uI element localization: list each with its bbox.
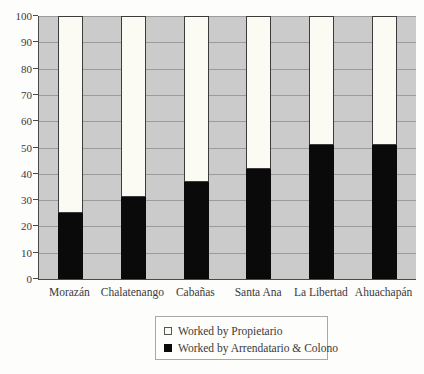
y-tick-label: 40 [4, 167, 32, 181]
y-tick-label: 70 [4, 88, 32, 102]
plot-area [38, 16, 416, 280]
y-tick-mark [33, 252, 38, 253]
y-tick-mark [33, 278, 38, 279]
x-axis-label: Morazán [38, 286, 101, 302]
bar-segment-propietario [309, 16, 334, 145]
gridline [39, 226, 416, 227]
legend: Worked by Propietario Worked by Arrendat… [155, 316, 328, 360]
bar-segment-arrendatario [121, 197, 146, 279]
y-tick-mark [33, 15, 38, 16]
bar-segment-arrendatario [372, 145, 397, 279]
legend-row-arrendatario: Worked by Arrendatario & Colono [164, 339, 327, 356]
x-axis-label: Cabañas [164, 286, 227, 302]
gridline [39, 16, 416, 17]
y-tick-mark [33, 225, 38, 226]
legend-label-arrendatario: Worked by Arrendatario & Colono [178, 342, 338, 354]
y-tick-mark [33, 68, 38, 69]
y-tick-label: 80 [4, 62, 32, 76]
y-tick-mark [33, 120, 38, 121]
y-tick-label: 50 [4, 141, 32, 155]
bar-segment-propietario [121, 16, 146, 197]
y-tick-label: 10 [4, 246, 32, 260]
bar-segment-propietario [184, 16, 209, 182]
gridline [39, 42, 416, 43]
y-tick-label: 30 [4, 193, 32, 207]
y-tick-mark [33, 199, 38, 200]
x-axis-label: Santa Ana [227, 286, 290, 302]
y-tick-label: 20 [4, 219, 32, 233]
gridline [39, 200, 416, 201]
bar-segment-arrendatario [246, 169, 271, 279]
chart: 0102030405060708090100 MorazánChalatenan… [0, 0, 424, 374]
gridline [39, 253, 416, 254]
y-tick-mark [33, 41, 38, 42]
gridline [39, 69, 416, 70]
gridline [39, 95, 416, 96]
y-tick-label: 100 [4, 9, 32, 23]
x-axis: MorazánChalatenangoCabañasSanta AnaLa Li… [38, 286, 415, 302]
y-tick-mark [33, 173, 38, 174]
y-tick-label: 0 [4, 272, 32, 286]
bar-segment-arrendatario [184, 182, 209, 279]
y-tick-mark [33, 147, 38, 148]
legend-swatch-arrendatario-icon [164, 344, 172, 352]
y-tick-label: 60 [4, 114, 32, 128]
legend-label-propietario: Worked by Propietario [178, 325, 282, 337]
x-axis-label: Chalatenango [101, 286, 164, 302]
bar-segment-propietario [58, 16, 83, 213]
y-tick-mark [33, 94, 38, 95]
x-axis-label: Ahuachapán [352, 286, 415, 302]
legend-row-propietario: Worked by Propietario [164, 322, 327, 339]
bar-segment-arrendatario [58, 213, 83, 279]
bar-segment-propietario [246, 16, 271, 169]
bar-segment-propietario [372, 16, 397, 145]
gridline [39, 121, 416, 122]
legend-swatch-propietario-icon [164, 327, 172, 335]
gridline [39, 148, 416, 149]
x-axis-label: La Libertad [289, 286, 352, 302]
gridline [39, 174, 416, 175]
y-tick-label: 90 [4, 35, 32, 49]
bar-segment-arrendatario [309, 145, 334, 279]
